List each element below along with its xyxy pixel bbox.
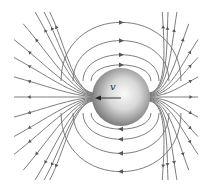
arrow-outward-icon: [28, 95, 31, 99]
arrow-outward-icon: [165, 163, 169, 166]
arrow-left-icon: [118, 151, 123, 156]
arrow-right-icon: [119, 20, 124, 25]
velocity-label: v: [110, 81, 116, 92]
arrow-left-icon: [118, 137, 123, 142]
field-line-left: [35, 12, 93, 94]
field-line-left: [50, 12, 93, 93]
arrow-outward-icon: [172, 29, 176, 32]
field-line-right: [149, 12, 168, 94]
arrow-left-icon: [118, 169, 123, 174]
arrow-right-icon: [119, 63, 124, 68]
field-line-left: [44, 100, 93, 180]
sphere-flow-diagram: v: [0, 0, 212, 191]
arrow-right-icon: [119, 52, 124, 57]
field-line-left: [50, 101, 93, 180]
arrow-right-icon: [119, 38, 124, 43]
arrow-outward-icon: [189, 95, 192, 99]
arrow-left-icon: [118, 127, 123, 132]
arrow-outward-icon: [161, 164, 165, 167]
arrow-outward-icon: [165, 27, 169, 30]
arrow-outward-icon: [161, 25, 165, 28]
field-line-right: [149, 100, 168, 180]
